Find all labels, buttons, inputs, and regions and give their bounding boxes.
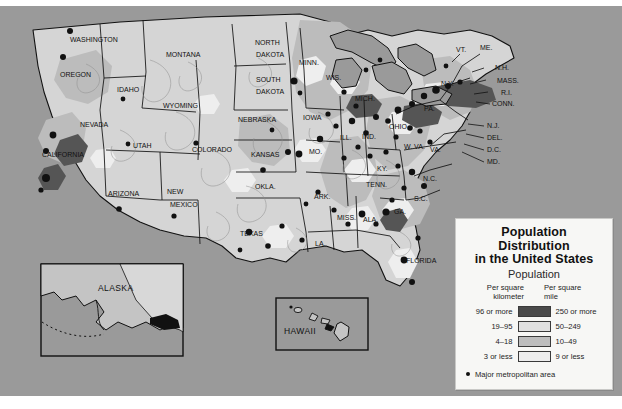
state-label: N.H. [495, 64, 509, 71]
state-label: IND. [362, 133, 376, 140]
state-label: MASS. [497, 77, 519, 84]
state-label: DAKOTA [256, 51, 285, 58]
state-label: CONN. [492, 100, 515, 107]
legend-header-mile: Per square mile [544, 283, 602, 301]
state-label: VT. [456, 46, 466, 53]
state-label: N.Y. [441, 80, 454, 87]
legend-row-mile-label: 50–249 [551, 322, 603, 331]
state-label: NEW [167, 188, 184, 195]
state-label: FLORIDA [406, 257, 437, 264]
map-screenshot: WASHINGTONOREGONIDAHOMONTANAWYOMINGNEVAD… [0, 0, 622, 409]
state-label: ILL. [340, 134, 352, 141]
map-legend: Population Distribution in the United St… [455, 218, 613, 390]
state-label: IDAHO [117, 86, 140, 93]
state-label: D.C. [487, 146, 501, 153]
legend-subtitle: Population [456, 268, 612, 280]
state-label: NEBRASKA [238, 116, 276, 123]
state-label: WASHINGTON [70, 36, 118, 43]
state-label: SOUTH [256, 76, 281, 83]
state-label: UTAH [133, 142, 152, 149]
state-label: N.C. [423, 175, 437, 182]
legend-color-swatch [518, 336, 551, 347]
state-label: KY. [377, 165, 387, 172]
state-label: VA. [430, 146, 441, 153]
legend-title-line1: Population [456, 226, 612, 240]
state-label: MEXICO [170, 201, 198, 208]
state-label: R.I. [501, 89, 512, 96]
state-label: CALIFORNIA [42, 151, 84, 158]
state-label: OREGON [60, 71, 91, 78]
state-label: GA. [394, 208, 406, 215]
state-label: DEL. [487, 134, 503, 141]
legend-row-kilometer-label: 4–18 [466, 337, 518, 346]
legend-footnote: Major metropolitan area [456, 370, 612, 379]
state-label: ME. [480, 44, 493, 51]
state-label: MD. [487, 158, 500, 165]
alaska-inset [41, 264, 183, 356]
legend-footnote-text: Major metropolitan area [475, 370, 555, 379]
state-label: N.J. [487, 122, 500, 129]
state-label: MICH. [355, 95, 375, 102]
legend-row-mile-label: 10–49 [551, 337, 603, 346]
hawaii-inset [276, 298, 368, 350]
state-label: KANSAS [251, 151, 280, 158]
state-label: MONTANA [166, 51, 201, 58]
legend-row-kilometer-label: 3 or less [466, 352, 518, 361]
state-label: IOWA [303, 114, 322, 121]
legend-color-swatch [518, 306, 551, 317]
state-label: NORTH [255, 39, 280, 46]
state-label: S.C. [414, 195, 428, 202]
legend-color-swatch [518, 351, 551, 362]
legend-row: 96 or more250 or more [456, 304, 612, 319]
state-label: OKLA. [255, 183, 276, 190]
state-label: TENN. [366, 181, 387, 188]
legend-title-line2: Distribution [456, 240, 612, 254]
legend-title-line3: in the United States [456, 253, 612, 267]
state-label: TEXAS [240, 230, 263, 237]
state-label: OHIO [389, 123, 407, 130]
legend-header-kilometer: Per square kilometer [466, 283, 524, 301]
legend-color-swatch [518, 321, 551, 332]
state-label: PA. [424, 105, 435, 112]
state-label: DAKOTA [256, 88, 285, 95]
legend-column-headers: Per square kilometer Per square mile [456, 283, 612, 301]
state-label: W. VA. [404, 143, 425, 150]
legend-row: 4–1810–49 [456, 334, 612, 349]
alaska-inset-label: ALASKA [98, 283, 133, 293]
legend-row: 3 or less9 or less [456, 349, 612, 364]
legend-row-kilometer-label: 96 or more [466, 307, 518, 316]
legend-row-mile-label: 9 or less [551, 352, 603, 361]
state-label: WIS. [326, 74, 341, 81]
legend-row-mile-label: 250 or more [551, 307, 603, 316]
state-label: NEVADA [80, 121, 109, 128]
state-label: WYOMING [163, 102, 198, 109]
state-label: ARK. [314, 193, 330, 200]
state-label: LA. [315, 240, 326, 247]
state-label: ARIZONA [108, 190, 139, 197]
legend-rows: 96 or more250 or more19–9550–2494–1810–4… [456, 304, 612, 364]
legend-row-kilometer-label: 19–95 [466, 322, 518, 331]
state-label: ALA. [363, 216, 378, 223]
legend-title: Population Distribution in the United St… [456, 226, 612, 267]
hawaii-inset-label: HAWAII [284, 326, 316, 336]
state-label: MO. [309, 148, 322, 155]
metro-dot-icon [466, 372, 470, 376]
state-label: COLORADO [192, 146, 233, 153]
legend-row: 19–9550–249 [456, 319, 612, 334]
state-label: MINN. [299, 59, 319, 66]
state-label: MISS. [337, 214, 356, 221]
